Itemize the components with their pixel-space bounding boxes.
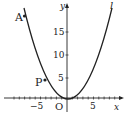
point-p-label: P [35,76,43,89]
y-axis-arrow-icon [65,3,69,8]
x-axis-arrow-icon [119,96,124,100]
parabola-diagram: A P l y x O −5 5 5 10 15 [0,0,130,119]
origin-label: O [55,101,63,112]
y-tick-label-10: 10 [53,50,65,60]
y-tick-label-15: 15 [53,27,65,37]
diagram-canvas: A P l y x O −5 5 5 10 15 [0,0,130,119]
x-tick-label-neg5: −5 [30,101,44,111]
point-a-label: A [14,11,24,24]
curve-label: l [110,0,113,11]
point-a [23,14,26,17]
point-p [43,78,46,81]
x-axis-label: x [114,102,119,112]
x-tick-label-5: 5 [90,101,96,111]
y-axis-label: y [59,1,66,11]
y-tick-label-5: 5 [58,73,64,83]
